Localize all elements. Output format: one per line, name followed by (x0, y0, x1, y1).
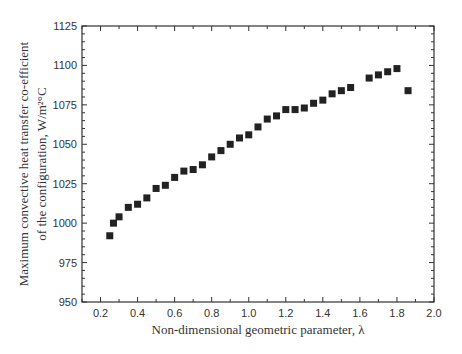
data-point (282, 106, 289, 113)
x-tick-label: 0.2 (93, 307, 108, 319)
data-point (106, 232, 113, 239)
data-point (190, 166, 197, 173)
data-point (110, 220, 117, 227)
data-point (245, 131, 252, 138)
data-point (310, 100, 317, 107)
data-points (106, 65, 411, 239)
y-tick-label: 1050 (53, 138, 77, 150)
data-point (292, 106, 299, 113)
data-point (125, 204, 132, 211)
data-point (236, 134, 243, 141)
data-point (171, 174, 178, 181)
data-point (153, 185, 160, 192)
y-tick-label: 1025 (53, 178, 77, 190)
data-point (255, 123, 262, 130)
y-axis-ticks: 950975100010251050107511001125 (53, 20, 434, 308)
x-tick-label: 0.4 (130, 307, 145, 319)
y-tick-label: 1075 (53, 99, 77, 111)
data-point (375, 71, 382, 78)
y-tick-label: 1000 (53, 217, 77, 229)
data-point (319, 97, 326, 104)
data-point (301, 105, 308, 112)
x-tick-label: 1.2 (278, 307, 293, 319)
data-point (217, 147, 224, 154)
data-point (208, 153, 215, 160)
data-point (162, 182, 169, 189)
data-point (273, 112, 280, 119)
x-tick-label: 1.8 (389, 307, 404, 319)
x-tick-label: 1.4 (315, 307, 330, 319)
x-tick-label: 2.0 (426, 307, 441, 319)
data-point (405, 87, 412, 94)
data-point (143, 194, 150, 201)
y-axis-title-line1: Maximum convective heat transfer co-effi… (16, 41, 31, 286)
y-tick-label: 950 (59, 296, 77, 308)
x-tick-label: 0.6 (167, 307, 182, 319)
scatter-chart: 0.20.40.60.81.01.21.41.61.82.0 950975100… (0, 0, 462, 354)
y-tick-label: 975 (59, 257, 77, 269)
data-point (338, 87, 345, 94)
y-tick-label: 1100 (53, 59, 77, 71)
data-point (366, 75, 373, 82)
x-tick-label: 0.8 (204, 307, 219, 319)
data-point (329, 90, 336, 97)
data-point (180, 168, 187, 175)
x-axis-title: Non-dimensional geometric parameter, λ (152, 322, 366, 337)
y-axis-title-line2: of the configuration, W/m²°C (34, 87, 49, 240)
data-point (384, 68, 391, 75)
plot-frame (82, 26, 434, 302)
data-point (199, 161, 206, 168)
data-point (134, 201, 141, 208)
y-tick-label: 1125 (53, 20, 77, 32)
data-point (264, 116, 271, 123)
x-tick-label: 1.0 (241, 307, 256, 319)
data-point (227, 141, 234, 148)
x-tick-label: 1.6 (352, 307, 367, 319)
data-point (393, 65, 400, 72)
data-point (347, 84, 354, 91)
data-point (116, 213, 123, 220)
